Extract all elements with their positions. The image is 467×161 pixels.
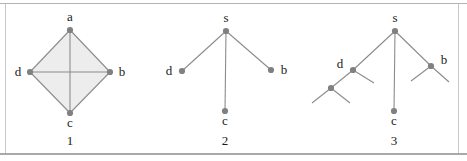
node-label-s: s xyxy=(214,11,238,24)
edge-s-d xyxy=(353,31,395,70)
branch-stub-3-4 xyxy=(411,66,431,81)
panel-caption-2: 2 xyxy=(210,133,240,149)
node-label-b: b xyxy=(110,65,134,78)
graph-node-s xyxy=(223,28,229,34)
node-label-c: c xyxy=(382,114,406,127)
edge-s-c xyxy=(394,31,395,111)
graph-node-s xyxy=(392,28,398,34)
branch-stub-3-0 xyxy=(353,70,374,83)
node-label-b: b xyxy=(272,63,296,76)
branch-stub-3-5 xyxy=(431,66,449,82)
node-label-d: d xyxy=(6,65,30,78)
edge-s-b xyxy=(226,31,271,70)
node-label-b: b xyxy=(432,53,456,66)
branch-stub-3-2 xyxy=(312,88,331,103)
graph-node-unlabeled xyxy=(328,85,334,91)
panel-caption-1: 1 xyxy=(55,133,85,149)
node-label-c: c xyxy=(58,116,82,129)
node-label-a: a xyxy=(58,10,82,23)
figure-container: adbc1sdbc2sdbc3 xyxy=(0,0,467,161)
branch-stub-3-3 xyxy=(331,88,350,103)
edge-s-b xyxy=(395,31,431,66)
node-label-s: s xyxy=(383,11,407,24)
edge-s-c xyxy=(225,31,226,111)
panel-caption-3: 3 xyxy=(379,133,409,149)
graph-node-a xyxy=(67,27,73,33)
node-label-d: d xyxy=(157,64,181,77)
node-label-d: d xyxy=(328,57,352,70)
branch-stub-3-1 xyxy=(331,70,353,88)
edge-s-d xyxy=(182,31,226,71)
node-label-c: c xyxy=(213,114,237,127)
